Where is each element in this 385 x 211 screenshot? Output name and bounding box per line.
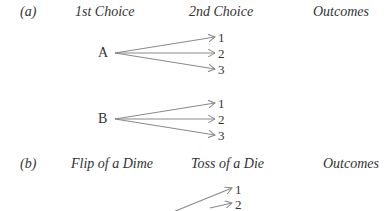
arrow-b-1 [115,103,215,119]
arrow-a-3 [115,53,215,69]
arrow-dime-2 [210,203,232,208]
arrow-a-1 [115,37,215,53]
arrow-dime-1 [173,188,232,211]
arrow-b-3 [115,119,215,135]
tree-arrows [0,0,385,211]
